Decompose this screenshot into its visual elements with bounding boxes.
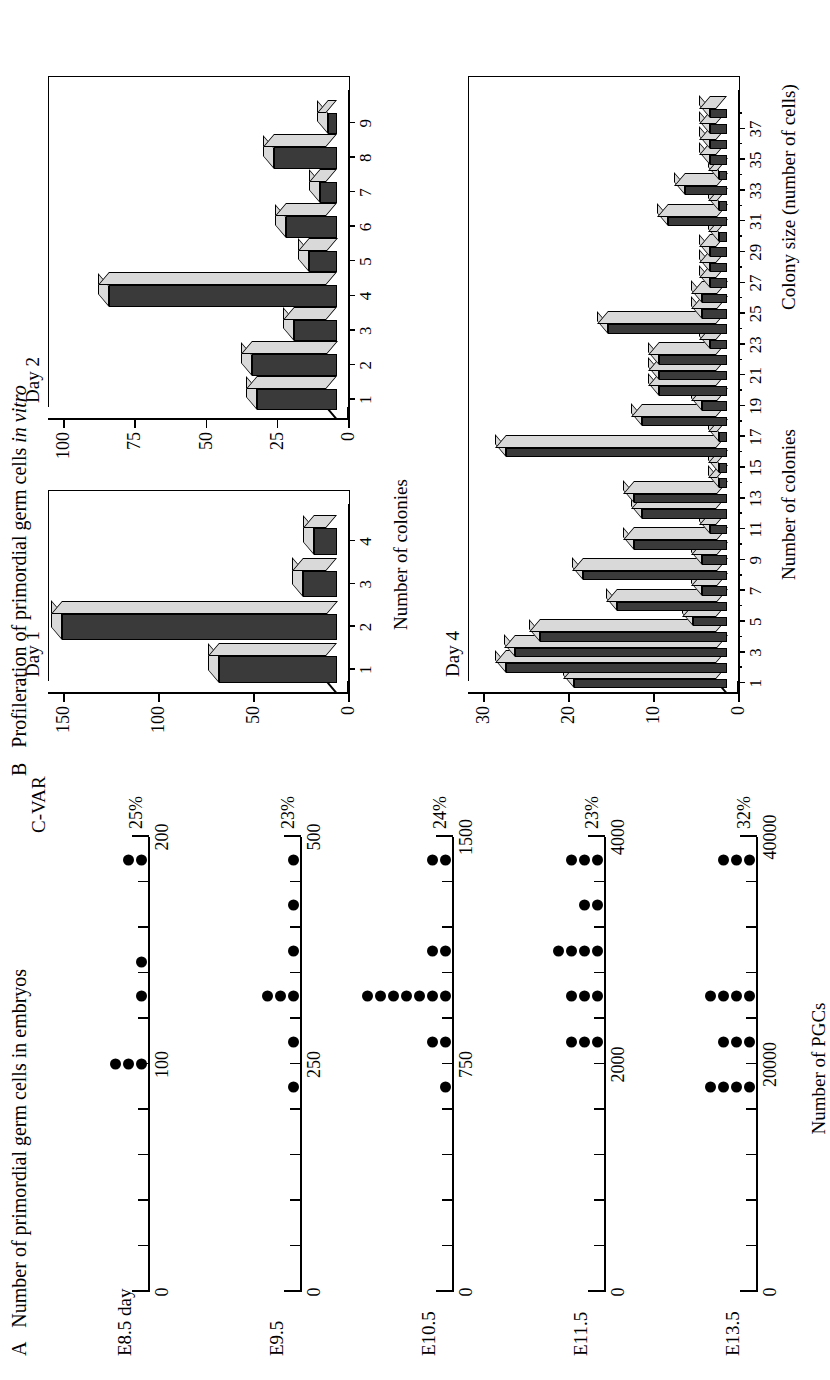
- y-axis-tick: [653, 694, 655, 702]
- bar-front-face: [642, 417, 727, 427]
- y-axis-tick-label: 0: [338, 432, 359, 482]
- y-axis-tick: [253, 694, 255, 702]
- bar: [540, 632, 727, 642]
- y-axis-tick-label: 0: [728, 706, 749, 756]
- y-axis-tick-label: 10: [643, 706, 664, 756]
- dot-row-axis-area: 025050023%: [214, 822, 332, 1292]
- axis-tick: [594, 1199, 605, 1201]
- x-axis-tick-label: 1: [356, 665, 376, 674]
- data-point: [731, 854, 742, 865]
- x-axis-tick-label: 8: [356, 154, 376, 163]
- x-axis-tick-label: 7: [746, 587, 766, 596]
- x-axis-tick-label: 1: [356, 395, 376, 404]
- axis-tick: [290, 1063, 301, 1065]
- axis-tick-label: 1500: [456, 819, 477, 855]
- data-point: [427, 1036, 438, 1047]
- data-point: [110, 1059, 121, 1070]
- x-axis-tick-label: 4: [356, 292, 376, 301]
- axis-tick: [746, 1154, 757, 1156]
- axis-tick: [746, 1063, 757, 1065]
- bar-side-face: [623, 481, 728, 494]
- y-axis-depth: [337, 692, 348, 694]
- bar: [274, 147, 337, 168]
- bar-front-face: [252, 354, 338, 375]
- bar-chart: 0102030135791113151719212325272931333537…: [468, 50, 798, 694]
- bar-side-face: [263, 134, 337, 147]
- y-axis-tick-label: 100: [148, 706, 169, 756]
- data-point: [362, 991, 373, 1002]
- x-axis-tick: [738, 497, 745, 499]
- y-axis-line: [48, 418, 337, 420]
- bar-front-face: [710, 278, 727, 288]
- y-axis-tick: [348, 420, 350, 428]
- bar: [574, 679, 727, 689]
- dot-row-label: E9.5: [266, 1321, 288, 1356]
- x-axis-tick: [738, 651, 745, 653]
- bar: [719, 432, 728, 442]
- bar: [710, 263, 727, 273]
- x-axis-tick: [738, 128, 745, 130]
- data-point: [401, 991, 412, 1002]
- data-point: [414, 991, 425, 1002]
- x-axis-tick-label: 13: [746, 490, 766, 507]
- data-point: [718, 1082, 729, 1093]
- bar-front-face: [320, 182, 337, 203]
- x-axis-tick-minor: [738, 143, 742, 145]
- bar: [710, 340, 727, 350]
- x-axis-tick: [738, 158, 745, 160]
- x-axis-line: [348, 504, 350, 694]
- axis-tick: [442, 1245, 453, 1247]
- bar: [303, 571, 337, 598]
- data-point: [718, 854, 729, 865]
- axis-tick: [594, 926, 605, 928]
- axis-tick-label: 100: [152, 1051, 173, 1078]
- x-axis-tick-label: 5: [746, 617, 766, 626]
- bar-front-face: [710, 124, 727, 134]
- data-point: [440, 1036, 451, 1047]
- bar: [634, 540, 728, 550]
- y-axis-tick-label: 50: [195, 432, 216, 482]
- bar: [693, 617, 727, 627]
- x-axis-tick-label: 27: [746, 275, 766, 292]
- axis-tick-label: 0: [304, 1288, 325, 1297]
- bar-front-face: [702, 309, 728, 319]
- axis-tick: [138, 1154, 149, 1156]
- x-axis-tick-minor: [738, 266, 742, 268]
- bar-front-face: [515, 648, 728, 658]
- y-axis-tick: [483, 694, 485, 702]
- axis-tick: [290, 972, 301, 974]
- bar-front-face: [286, 216, 337, 237]
- data-point: [744, 1036, 755, 1047]
- bar-side-face: [495, 435, 727, 448]
- bar-front-face: [702, 555, 728, 565]
- axis-tick: [746, 1199, 757, 1201]
- dot-row-label: E11.5: [570, 1312, 592, 1356]
- bar-side-face: [275, 203, 337, 216]
- x-axis-tick-minor: [738, 636, 742, 638]
- axis-tick: [746, 881, 757, 883]
- x-axis-tick-label: 29: [746, 244, 766, 261]
- panel-a-xaxis-title: Number of PGCs: [808, 1003, 830, 1135]
- bar: [286, 216, 337, 237]
- data-point: [288, 991, 299, 1002]
- c-var-header: C-VAR: [28, 776, 50, 833]
- x-axis-tick: [738, 312, 745, 314]
- bar-front-face: [540, 632, 727, 642]
- bar-front-face: [608, 324, 727, 334]
- y-axis-tick-label: 150: [53, 706, 74, 756]
- bar: [702, 309, 728, 319]
- data-point: [288, 854, 299, 865]
- x-axis-tick-label: 15: [746, 459, 766, 476]
- bar-front-face: [710, 155, 727, 165]
- dot-row-label: E8.5 day: [114, 1288, 136, 1356]
- axis-tick: [746, 972, 757, 974]
- bar-front-face: [314, 528, 337, 555]
- axis-tick: [138, 972, 149, 974]
- bar: [702, 294, 728, 304]
- dot-row-axis-line: [300, 837, 302, 1292]
- chart-title: Day 4: [442, 631, 464, 677]
- bar-side-face: [246, 376, 337, 389]
- axis-tick: [284, 835, 301, 837]
- bar: [506, 448, 727, 458]
